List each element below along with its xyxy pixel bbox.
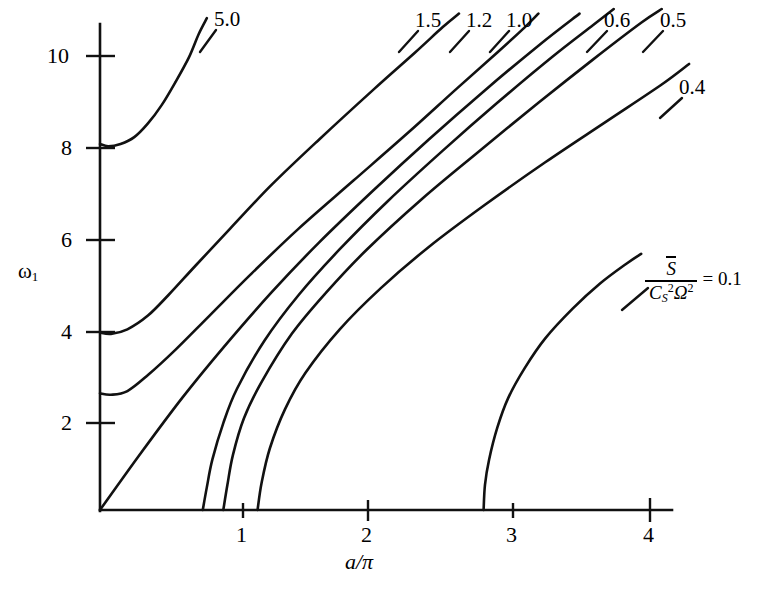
legend-fraction: S CS2Ω2 <box>645 256 697 303</box>
y-tick-label-6: 6 <box>61 229 72 251</box>
curve-0-1 <box>484 254 642 510</box>
x-tick-label-3: 3 <box>506 524 517 546</box>
x-axis-title: a/π <box>345 551 373 573</box>
curves-group <box>100 9 689 510</box>
leader-0-4 <box>660 98 682 118</box>
legend-denominator-omega-sup: 2 <box>687 281 693 295</box>
curve-label-0-6: 0.6 <box>604 10 630 31</box>
curve-label-0-4: 0.4 <box>679 77 705 98</box>
label-leader-lines <box>200 30 682 310</box>
legend-denominator: CS2Ω2 <box>645 282 697 303</box>
y-tick-label-2: 2 <box>61 412 72 434</box>
y-axis-title: ω1 <box>18 261 38 282</box>
curve-0-5 <box>223 9 661 510</box>
curve-label-1-2: 1.2 <box>466 10 492 31</box>
leader-0-6 <box>587 31 607 52</box>
y-tick-label-8: 8 <box>61 137 72 159</box>
y-tick-label-10: 10 <box>47 45 69 67</box>
leader-0-5 <box>643 31 663 52</box>
y-axis-title-subscript: 1 <box>32 269 39 284</box>
legend-denominator-omega: Ω <box>674 282 688 303</box>
y-tick-label-4: 4 <box>61 321 72 343</box>
curve-0-4 <box>258 64 690 510</box>
legend-denominator-c-sup: 2 <box>668 281 674 295</box>
legend-denominator-c-sub: S <box>662 291 668 305</box>
curve-label-1-0: 1.0 <box>506 10 532 31</box>
curve-1-5 <box>100 14 459 334</box>
x-tick-label-1: 1 <box>236 524 247 546</box>
legend-denominator-c: C <box>649 282 662 303</box>
y-axis-title-symbol: ω <box>18 259 32 283</box>
x-tick-label-2: 2 <box>361 524 372 546</box>
curve-5-0 <box>100 18 207 146</box>
leader-1-5 <box>399 31 418 52</box>
overbar <box>666 256 676 258</box>
legend-numerator: S <box>661 256 681 280</box>
dispersion-curve-figure: 10 8 6 4 2 1 2 3 4 ω1 a/π 5.0 1.5 1.2 1.… <box>0 0 761 589</box>
x-tick-label-4: 4 <box>643 524 654 546</box>
curve-label-5-0: 5.0 <box>214 9 240 30</box>
leader-5-0 <box>200 30 216 52</box>
leader-1-2 <box>450 31 469 52</box>
curve-label-0-5: 0.5 <box>660 10 686 31</box>
curve-1-2 <box>100 14 538 395</box>
curve-label-1-5: 1.5 <box>415 10 441 31</box>
legend-formula: S CS2Ω2 = 0.1 <box>645 256 742 303</box>
legend-equals-value: = 0.1 <box>702 268 741 290</box>
legend-numerator-symbol: S <box>666 256 676 279</box>
